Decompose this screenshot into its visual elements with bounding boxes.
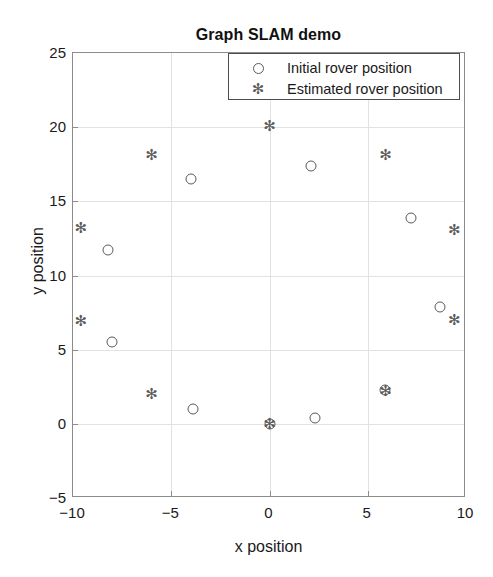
circle-marker-icon [253, 63, 264, 74]
gridline-horizontal [73, 424, 464, 425]
x-tick-mark [368, 491, 369, 496]
legend-symbol: ✻ [229, 83, 287, 96]
circle-marker-icon [103, 245, 114, 256]
legend-entry[interactable]: Initial rover position [229, 57, 459, 79]
x-tick-label: 0 [264, 504, 272, 521]
y-tick-mark [73, 201, 78, 202]
x-tick-mark [171, 491, 172, 496]
gridline-vertical [270, 53, 271, 496]
gridline-horizontal [73, 201, 464, 202]
circle-marker-icon [305, 160, 316, 171]
y-tick-mark [73, 127, 78, 128]
asterisk-marker-icon: ✻ [252, 83, 265, 96]
asterisk-marker-icon: ✻ [379, 385, 392, 398]
circle-marker-icon [380, 384, 391, 395]
asterisk-marker-icon: ✻ [448, 314, 461, 327]
circle-marker-icon [435, 301, 446, 312]
y-tick-label: 20 [24, 118, 66, 135]
asterisk-marker-icon: ✻ [145, 388, 158, 401]
legend-label: Initial rover position [287, 60, 412, 76]
asterisk-marker-icon: ✻ [448, 223, 461, 236]
circle-marker-icon [405, 212, 416, 223]
y-axis-label: y position [29, 181, 47, 341]
gridline-horizontal [73, 350, 464, 351]
circle-marker-icon [185, 174, 196, 185]
x-tick-mark [270, 491, 271, 496]
gridline-horizontal [73, 127, 464, 128]
chart-figure: Graph SLAM demo ✻✻✻✻✻✻✻✻✻✻ −10−50510 −50… [0, 0, 493, 577]
legend-entry[interactable]: ✻Estimated rover position [229, 78, 459, 100]
y-tick-label: 0 [24, 414, 66, 431]
gridline-vertical [171, 53, 172, 496]
chart-legend[interactable]: Initial rover position✻Estimated rover p… [228, 53, 460, 100]
y-tick-label: 25 [24, 44, 66, 61]
asterisk-marker-icon: ✻ [74, 222, 87, 235]
gridline-vertical [368, 53, 369, 496]
legend-label: Estimated rover position [287, 81, 443, 97]
x-tick-label: 5 [363, 504, 371, 521]
asterisk-marker-icon: ✻ [74, 315, 87, 328]
x-tick-label: 10 [457, 504, 474, 521]
x-axis-label: x position [72, 538, 465, 556]
y-tick-label: −5 [24, 489, 66, 506]
asterisk-marker-icon: ✻ [379, 149, 392, 162]
chart-title: Graph SLAM demo [72, 26, 465, 44]
circle-marker-icon [107, 337, 118, 348]
x-tick-label: −5 [162, 504, 179, 521]
y-tick-mark [73, 276, 78, 277]
asterisk-marker-icon: ✻ [145, 149, 158, 162]
gridline-horizontal [73, 276, 464, 277]
y-tick-label: 5 [24, 340, 66, 357]
circle-marker-icon [187, 404, 198, 415]
plot-area[interactable]: ✻✻✻✻✻✻✻✻✻✻ [72, 52, 465, 497]
legend-symbol [229, 63, 287, 74]
y-tick-mark [73, 424, 78, 425]
circle-marker-icon [309, 412, 320, 423]
y-tick-mark [73, 350, 78, 351]
x-tick-label: −10 [59, 504, 84, 521]
